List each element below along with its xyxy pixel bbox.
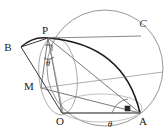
label-O: O [56,115,64,127]
small-circle-pmo [35,35,81,117]
segment-m-right [41,72,163,88]
geometry-canvas: B P C M O A θ θ [0,0,168,130]
segment-p-foot [48,38,63,112]
label-theta-at-p: θ [46,58,51,68]
geometry-figure: B P C M O A θ θ [0,0,168,130]
segment-p-chord-right [48,36,141,38]
label-M: M [24,80,34,92]
label-P: P [42,24,48,36]
label-theta-at-a: θ [108,119,113,129]
label-A: A [139,115,147,127]
label-B: B [4,41,11,53]
label-C: C [139,17,147,29]
right-angle-marker-on-oa [125,106,130,111]
